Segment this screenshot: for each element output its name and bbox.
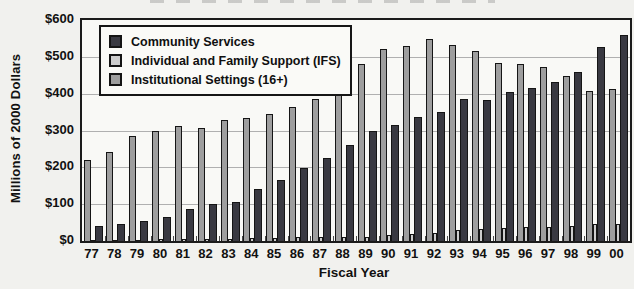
- bar-community-81: [186, 209, 194, 241]
- y-tick-label: $400: [0, 85, 74, 100]
- y-tick-label: $300: [0, 122, 74, 137]
- x-axis-minor-tick: [173, 236, 174, 241]
- cropped-title-artifact: [150, 0, 495, 3]
- gridline: [82, 167, 630, 168]
- legend-item-community-services: Community Services: [109, 32, 341, 51]
- x-axis-minor-tick: [356, 236, 357, 241]
- ifs-swatch-icon: [109, 54, 122, 67]
- bar-institutional-84: [243, 118, 250, 241]
- x-axis-minor-tick: [447, 236, 448, 241]
- bar-community-79: [140, 221, 148, 241]
- bar-community-96: [528, 88, 536, 241]
- bar-institutional-93: [449, 45, 456, 241]
- institutional-settings-swatch-icon: [109, 73, 122, 86]
- bar-community-95: [506, 92, 514, 241]
- bar-institutional-86: [289, 107, 296, 241]
- bar-community-97: [551, 82, 559, 241]
- bar-community-98: [574, 72, 582, 241]
- x-axis-minor-tick: [219, 236, 220, 241]
- x-axis-minor-tick: [379, 236, 380, 241]
- bar-community-86: [300, 168, 308, 241]
- bar-community-00: [620, 35, 628, 241]
- bar-institutional-88: [335, 92, 342, 241]
- y-tick-label: $600: [0, 11, 74, 26]
- bar-institutional-95: [495, 63, 502, 241]
- legend-label: Individual and Family Support (IFS): [131, 54, 341, 68]
- bar-community-80: [163, 217, 171, 241]
- bar-institutional-79: [129, 136, 136, 241]
- x-axis-minor-tick: [242, 236, 243, 241]
- chart-figure: Millions of 2000 Dollars $0$100$200$300$…: [0, 0, 634, 289]
- bar-institutional-91: [403, 46, 410, 241]
- bar-community-85: [277, 180, 285, 241]
- bar-institutional-83: [221, 120, 228, 241]
- bar-community-78: [117, 224, 125, 241]
- bar-institutional-87: [312, 99, 319, 241]
- y-tick-label: $500: [0, 48, 74, 63]
- x-axis-minor-tick: [288, 236, 289, 241]
- bar-institutional-00: [609, 89, 616, 241]
- x-axis-minor-tick: [402, 236, 403, 241]
- chart-legend: Community Services Individual and Family…: [99, 25, 352, 96]
- x-axis-title: Fiscal Year: [80, 265, 628, 280]
- bar-community-82: [209, 204, 217, 241]
- x-axis-minor-tick: [333, 236, 334, 241]
- bar-community-83: [232, 202, 240, 241]
- x-tick-label: 00: [602, 246, 632, 261]
- bar-community-94: [483, 100, 491, 241]
- x-axis-minor-tick: [607, 236, 608, 241]
- legend-label: Institutional Settings (16+): [131, 73, 288, 87]
- bar-institutional-94: [472, 51, 479, 241]
- gridline: [82, 204, 630, 205]
- x-axis-minor-tick: [128, 236, 129, 241]
- bar-institutional-82: [198, 128, 205, 241]
- x-axis-minor-tick: [562, 236, 563, 241]
- community-services-swatch-icon: [109, 35, 122, 48]
- x-axis-minor-tick: [425, 236, 426, 241]
- y-tick-label: $0: [0, 232, 74, 247]
- bar-institutional-78: [106, 152, 113, 242]
- legend-item-institutional-settings: Institutional Settings (16+): [109, 70, 341, 89]
- bar-community-77: [95, 226, 103, 241]
- x-axis-minor-tick: [539, 236, 540, 241]
- bar-institutional-96: [517, 64, 524, 241]
- bar-institutional-97: [540, 67, 547, 241]
- legend-label: Community Services: [131, 35, 255, 49]
- bar-institutional-92: [426, 39, 433, 241]
- bar-community-90: [391, 125, 399, 241]
- x-axis-minor-tick: [516, 236, 517, 241]
- x-axis-minor-tick: [265, 236, 266, 241]
- x-axis-minor-tick: [493, 236, 494, 241]
- bar-institutional-98: [563, 76, 570, 241]
- bar-institutional-90: [380, 49, 387, 241]
- bar-community-93: [460, 99, 468, 241]
- bar-institutional-85: [266, 114, 273, 241]
- bar-institutional-77: [84, 160, 91, 241]
- bar-community-88: [346, 145, 354, 242]
- y-tick-label: $200: [0, 158, 74, 173]
- bar-community-87: [323, 158, 331, 241]
- bar-institutional-81: [175, 126, 182, 241]
- x-axis-minor-tick: [584, 236, 585, 241]
- x-axis-minor-tick: [151, 236, 152, 241]
- bar-institutional-89: [358, 64, 365, 241]
- bar-community-91: [414, 117, 422, 241]
- bar-community-92: [437, 112, 445, 241]
- legend-item-ifs: Individual and Family Support (IFS): [109, 51, 341, 70]
- bar-community-89: [369, 131, 377, 241]
- y-tick-label: $100: [0, 195, 74, 210]
- bar-institutional-99: [586, 91, 593, 241]
- x-axis-minor-tick: [470, 236, 471, 241]
- bar-community-84: [254, 189, 262, 241]
- x-axis-minor-tick: [310, 236, 311, 241]
- gridline: [82, 131, 630, 132]
- bar-institutional-80: [152, 131, 159, 242]
- x-axis-minor-tick: [105, 236, 106, 241]
- x-axis-minor-tick: [196, 236, 197, 241]
- bar-community-99: [597, 47, 605, 241]
